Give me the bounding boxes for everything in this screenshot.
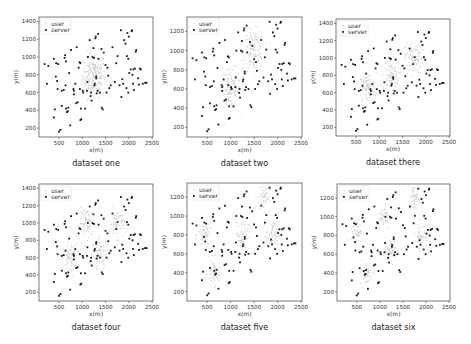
y-tick-label: 200 <box>173 124 184 130</box>
y-tick-label: 1400 <box>22 18 37 24</box>
y-tick-label: 600 <box>322 90 333 96</box>
subplot-caption: dataset five <box>167 323 322 332</box>
subplot-caption: dataset two <box>167 159 322 168</box>
legend: userserver <box>189 19 219 34</box>
x-tick-label: 500 <box>202 304 213 310</box>
x-tick-label: 2000 <box>122 304 137 310</box>
legend-server-label: server <box>199 192 219 199</box>
x-tick-label: 2000 <box>270 304 285 310</box>
y-tick-label: 800 <box>322 72 333 78</box>
x-tick-label: 2000 <box>419 304 434 310</box>
y-tick-label: 1000 <box>319 55 334 61</box>
y-tick-label: 800 <box>323 232 334 238</box>
y-axis-label: y(m) <box>160 235 168 249</box>
legend: userserver <box>41 19 71 34</box>
y-tick-label: 1000 <box>170 213 185 219</box>
y-tick-label: 1200 <box>319 38 334 44</box>
server-points <box>44 29 148 132</box>
y-tick-label: 400 <box>323 270 334 276</box>
y-tick-label: 400 <box>25 272 36 278</box>
x-axis-label: x(m) <box>237 310 251 317</box>
axes-frame <box>187 183 302 301</box>
y-tick-label: 1200 <box>320 195 335 201</box>
legend-user-marker <box>193 189 194 190</box>
x-tick-label: 500 <box>54 140 65 146</box>
scatter-plot: 5001000150020002500200400600800100012001… <box>9 178 163 325</box>
y-tick-label: 200 <box>322 124 333 130</box>
legend: userserver <box>338 21 368 36</box>
y-tick-label: 400 <box>322 107 333 113</box>
y-tick-label: 200 <box>25 289 36 295</box>
subplot-caption: dataset six <box>317 323 470 332</box>
y-tick-label: 1200 <box>170 194 185 200</box>
scatter-plot: 500100015002000250020040060080010001200x… <box>307 178 460 325</box>
x-tick-label: 1000 <box>75 140 90 146</box>
y-tick-label: 1000 <box>22 54 37 60</box>
legend-server-marker <box>342 31 344 33</box>
y-tick-label: 1200 <box>22 36 37 42</box>
axes-frame <box>187 17 302 137</box>
y-axis-label: y(m) <box>310 235 318 249</box>
server-points <box>192 21 297 132</box>
subplot-caption: dataset one <box>19 159 173 168</box>
server-points <box>341 31 445 132</box>
y-tick-label: 1000 <box>22 220 37 226</box>
y-axis-label: y(m) <box>309 70 317 84</box>
legend-server-label: server <box>349 193 369 200</box>
y-tick-label: 600 <box>173 86 184 92</box>
legend-server-marker <box>193 195 195 197</box>
y-tick-label: 800 <box>173 232 184 238</box>
subplot-5: 500100015002000250020040060080010001200x… <box>157 177 312 325</box>
subplot-2: 500100015002000250020040060080010001200x… <box>157 11 312 161</box>
x-tick-label: 1000 <box>224 304 239 310</box>
subplot-1: 5001000150020002500200400600800100012001… <box>9 11 163 161</box>
subplot-3: 5001000150020002500200400600800100012001… <box>306 13 460 160</box>
legend-server-label: server <box>348 28 368 35</box>
legend-user-marker <box>193 23 194 24</box>
legend-server-marker <box>343 196 345 198</box>
legend: userserver <box>189 185 219 200</box>
legend-user-marker <box>343 190 344 191</box>
y-tick-label: 600 <box>173 251 184 257</box>
x-tick-label: 1000 <box>224 140 239 146</box>
y-tick-label: 200 <box>323 289 334 295</box>
y-tick-label: 1000 <box>170 48 185 54</box>
y-tick-label: 800 <box>173 67 184 73</box>
y-tick-label: 1200 <box>170 28 185 34</box>
x-tick-label: 1000 <box>372 139 387 145</box>
x-tick-label: 2000 <box>419 139 434 145</box>
y-tick-label: 600 <box>25 90 36 96</box>
y-axis-label: y(m) <box>12 70 20 84</box>
legend: userserver <box>41 186 71 201</box>
legend-user-marker <box>342 25 343 26</box>
y-tick-label: 200 <box>173 289 184 295</box>
legend-server-marker <box>193 29 195 31</box>
y-tick-label: 400 <box>25 107 36 113</box>
user-points <box>220 25 271 123</box>
subplot-4: 5001000150020002500200400600800100012001… <box>9 178 163 325</box>
legend-server-label: server <box>199 26 219 33</box>
axes-frame <box>337 184 450 301</box>
user-points <box>73 46 111 104</box>
server-points <box>192 187 297 296</box>
y-tick-label: 400 <box>173 105 184 111</box>
y-tick-label: 400 <box>173 270 184 276</box>
scatter-plot: 5001000150020002500200400600800100012001… <box>9 11 163 161</box>
y-axis-label: y(m) <box>160 70 168 84</box>
legend-user-marker <box>45 23 46 24</box>
y-tick-label: 1400 <box>22 185 37 191</box>
y-tick-label: 800 <box>25 237 36 243</box>
scatter-plot: 5001000150020002500200400600800100012001… <box>306 13 460 160</box>
x-tick-label: 1000 <box>373 304 388 310</box>
x-axis-label: x(m) <box>89 146 103 153</box>
x-axis-label: x(m) <box>386 145 400 152</box>
legend-user-marker <box>45 190 46 191</box>
y-tick-label: 1000 <box>320 214 335 220</box>
server-points <box>44 196 148 297</box>
legend: userserver <box>339 186 369 201</box>
x-tick-label: 500 <box>351 139 362 145</box>
x-tick-label: 1000 <box>75 304 90 310</box>
legend-server-label: server <box>51 193 71 200</box>
x-tick-label: 2000 <box>122 140 137 146</box>
x-tick-label: 2500 <box>442 304 457 310</box>
